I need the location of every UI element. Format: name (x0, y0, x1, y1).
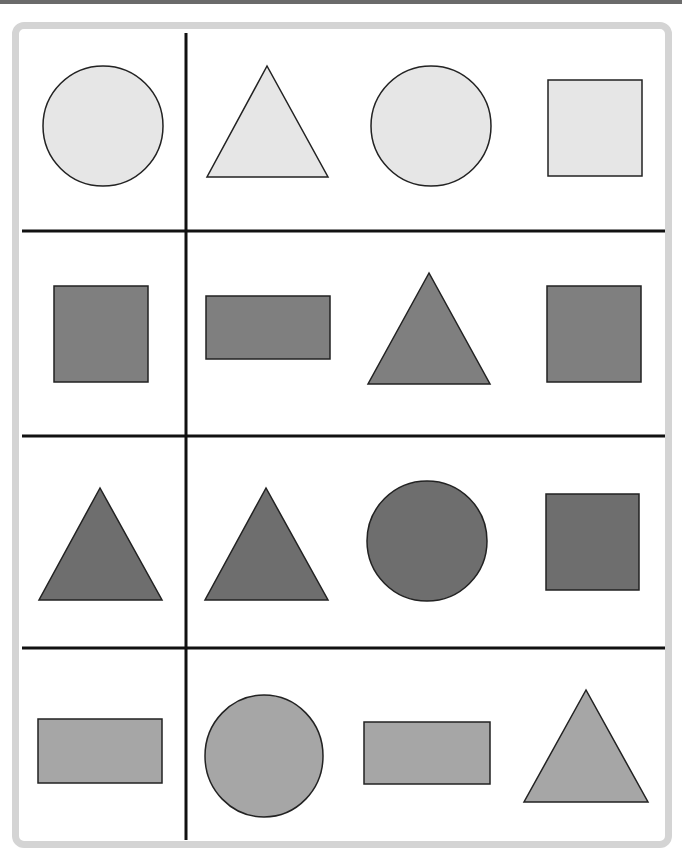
row-2-rectangle-shape[interactable] (206, 296, 330, 359)
row-3-triangle-shape[interactable] (39, 488, 162, 600)
row-4-oval-shape[interactable] (205, 695, 323, 817)
row-2 (54, 273, 641, 384)
row-2-square-shape-2[interactable] (547, 286, 641, 382)
row-1-circle-shape[interactable] (43, 66, 163, 186)
row-2-square-shape[interactable] (54, 286, 148, 382)
row-3-square-shape[interactable] (546, 494, 639, 590)
row-4 (38, 690, 648, 817)
row-3 (39, 481, 639, 601)
row-4-rectangle-shape[interactable] (38, 719, 162, 783)
row-1-square-shape[interactable] (548, 80, 642, 176)
row-3-triangle-shape-2[interactable] (205, 488, 328, 600)
row-1-triangle-shape[interactable] (207, 66, 328, 177)
row-2-triangle-shape[interactable] (368, 273, 490, 384)
row-1-circle-shape-2[interactable] (371, 66, 491, 186)
row-4-triangle-shape[interactable] (524, 690, 648, 802)
shape-grid (0, 0, 682, 861)
row-1 (43, 66, 642, 186)
row-3-circle-shape[interactable] (367, 481, 487, 601)
row-4-rectangle-shape-2[interactable] (364, 722, 490, 784)
